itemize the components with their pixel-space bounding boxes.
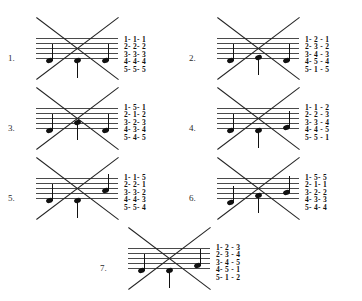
staff-line xyxy=(217,183,299,184)
note-stem xyxy=(258,58,259,75)
staff-line xyxy=(217,113,299,114)
staff-line xyxy=(36,183,118,184)
note-stem xyxy=(77,61,78,78)
exercise-label: 6. xyxy=(189,194,196,203)
fingering-row: 5- 5 - 1 xyxy=(305,134,329,141)
staff-line xyxy=(36,53,118,54)
fingering-row: 5- 1 - 2 xyxy=(216,274,240,281)
staff-line xyxy=(217,38,299,39)
note-stem xyxy=(289,111,290,128)
note-stem xyxy=(169,271,170,288)
fingering-number-table: 1- 2 - 12- 3 - 23- 4 - 34- 5 - 45- 1 - 5 xyxy=(305,36,329,73)
note-stem xyxy=(108,114,109,131)
note-stem xyxy=(52,44,53,61)
music-staff xyxy=(36,108,118,128)
fingering-row: 5- 5- 4 xyxy=(124,204,146,211)
staff-line xyxy=(36,38,118,39)
note-stem xyxy=(200,249,201,266)
note-stem xyxy=(144,254,145,271)
music-staff xyxy=(217,178,299,198)
note-stem xyxy=(258,196,259,213)
staff-line xyxy=(217,108,299,109)
exercise-label: 1. xyxy=(8,54,15,63)
staff-line xyxy=(128,248,210,249)
exercise-label: 3. xyxy=(8,124,15,133)
staff-line xyxy=(36,43,118,44)
fingering-row: 5- 4- 5 xyxy=(124,134,146,141)
staff-line xyxy=(36,113,118,114)
fingering-number-table: 1- 5- 52- 1- 13- 2- 24- 3- 35- 4- 4 xyxy=(305,174,327,211)
music-staff xyxy=(36,38,118,58)
note-stem xyxy=(233,186,234,203)
fingering-number-table: 1- 1- 12- 2- 23- 3- 34- 4- 45- 5- 5 xyxy=(124,36,146,73)
exercise-label: 4. xyxy=(189,124,196,133)
music-staff xyxy=(217,108,299,128)
exercise-label: 5. xyxy=(8,194,15,203)
note-stem xyxy=(52,184,53,201)
staff-line xyxy=(36,108,118,109)
music-staff xyxy=(36,178,118,198)
fingering-number-table: 1- 2 - 32- 3 - 43- 4 - 54- 5 - 15- 1 - 2 xyxy=(216,244,240,281)
note-stem xyxy=(233,44,234,61)
fingering-number-table: 1- 1 - 22- 2 - 33- 3 - 44- 4 - 55- 5 - 1 xyxy=(305,104,329,141)
staff-line xyxy=(128,253,210,254)
fingering-row: 5- 4- 4 xyxy=(305,204,327,211)
note-stem xyxy=(289,44,290,61)
music-staff xyxy=(217,38,299,58)
staff-line xyxy=(36,178,118,179)
note-stem xyxy=(108,44,109,61)
note-stem xyxy=(289,176,290,193)
fingering-number-table: 1- 1- 52- 2- 13- 3- 24- 4- 35- 5- 4 xyxy=(124,174,146,211)
music-staff xyxy=(128,248,210,268)
note-stem xyxy=(233,114,234,131)
staff-line xyxy=(217,178,299,179)
exercise-label: 2. xyxy=(189,54,196,63)
note-stem xyxy=(77,201,78,218)
note-stem xyxy=(77,123,78,140)
staff-line xyxy=(36,193,118,194)
fingering-row: 5- 1 - 5 xyxy=(305,66,329,73)
fingering-number-table: 1- 5- 12- 1- 23- 2- 34- 3- 45- 4- 5 xyxy=(124,104,146,141)
note-stem xyxy=(258,131,259,148)
fingering-row: 5- 5- 5 xyxy=(124,66,146,73)
staff-line xyxy=(217,43,299,44)
note-stem xyxy=(52,114,53,131)
exercise-label: 7. xyxy=(100,264,107,273)
note-stem xyxy=(108,174,109,191)
worksheet-sheet: 1.1- 1- 12- 2- 23- 3- 34- 4- 45- 5- 52.1… xyxy=(0,0,362,301)
